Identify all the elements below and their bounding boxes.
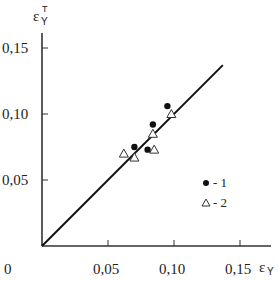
x-axis-label-sub: Y: [267, 266, 274, 277]
x-axis-label-main: ε: [259, 259, 265, 275]
data-point-series-1: [150, 121, 156, 127]
legend-label-2: - 2: [213, 195, 227, 210]
legend-label-1: - 1: [213, 175, 227, 190]
x-axis-label: ε Y: [259, 259, 274, 277]
origin-label: 0: [4, 261, 12, 277]
y-axis-label: ε T Y: [33, 4, 48, 27]
data-point-series-2: [150, 145, 159, 153]
y-axis-label-sup: T: [42, 4, 48, 14]
y-tick-label: 0,10: [2, 106, 28, 122]
y-tick-label: 0,15: [2, 40, 28, 56]
x-tick-label: 0,10: [159, 261, 185, 277]
y-axis-label-sub: Y: [41, 16, 48, 27]
y-axis-label-main: ε: [33, 8, 39, 24]
data-point-series-2: [119, 149, 128, 157]
data-point-series-1: [164, 103, 170, 109]
y-tick-label: 0,05: [2, 172, 28, 188]
y-ticks: 0,050,100,15: [2, 40, 48, 188]
x-tick-label: 0,05: [93, 261, 119, 277]
data-point-series-1: [131, 144, 137, 150]
scatter-chart: 0,050,100,15 0,050,100,15 0 ε T Y ε Y - …: [0, 0, 278, 281]
legend-marker-open-triangle: [202, 199, 210, 206]
legend-marker-filled-circle: [203, 180, 209, 186]
data-points: [119, 103, 176, 161]
x-tick-label: 0,15: [225, 261, 251, 277]
axes: [42, 33, 271, 246]
legend: - 1 - 2: [202, 175, 227, 210]
